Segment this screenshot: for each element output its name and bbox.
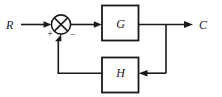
error-wire-arrowhead — [94, 21, 102, 28]
block-diagram-canvas: + − G H R C — [0, 0, 222, 97]
input-wire-arrowhead — [44, 21, 52, 28]
input-signal-label: R — [5, 18, 14, 32]
takeoff-wire-arrowhead — [139, 70, 148, 77]
block-h-label: H — [115, 66, 126, 80]
control-system-block-diagram: + − G H R C — [0, 0, 222, 97]
feedback-wire-arrowhead — [55, 34, 61, 41]
plus-sign-label: + — [47, 28, 53, 39]
output-signal-label: C — [199, 18, 208, 32]
output-wire-arrowhead — [184, 21, 193, 28]
block-g-label: G — [116, 17, 125, 31]
minus-sign-label: − — [70, 29, 76, 40]
